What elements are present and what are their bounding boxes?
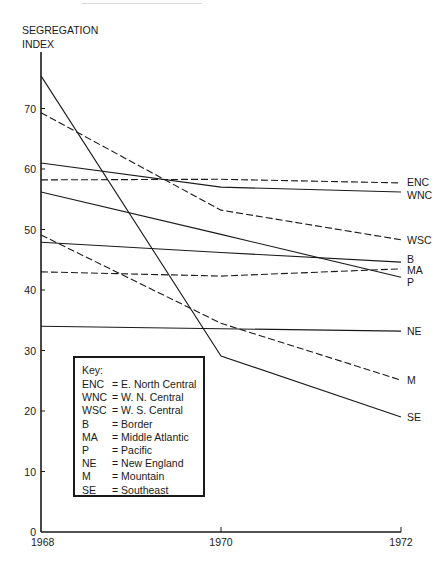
x-tick-label: 1970: [209, 536, 233, 548]
legend-abbr: M: [82, 470, 112, 482]
legend-abbr: WNC: [82, 391, 112, 403]
legend-description: = E. North Central: [112, 378, 196, 390]
series-line-enc: [41, 179, 401, 183]
legend-key-box: Key: ENC= E. North CentralWNC= W. N. Cen…: [73, 356, 205, 497]
series-label-p: P: [407, 276, 414, 288]
legend-abbr: P: [82, 444, 112, 456]
line-chart: 010203040506070196819701972ENCWNCWSCBMAP…: [0, 0, 445, 567]
legend-description: = Pacific: [112, 444, 152, 456]
series-label-se: SE: [407, 411, 421, 423]
y-tick-label: 70: [24, 103, 36, 115]
legend-abbr: NE: [82, 457, 112, 469]
y-tick-label: 10: [24, 466, 36, 478]
x-tick-label: 1972: [389, 536, 413, 548]
legend-entry: B= Border: [82, 418, 153, 430]
series-line-ne: [41, 326, 401, 331]
legend-description: = New England: [112, 457, 184, 469]
legend-entry: MA= Middle Atlantic: [82, 431, 189, 443]
legend-abbr: B: [82, 418, 112, 430]
legend-abbr: MA: [82, 431, 112, 443]
legend-entry: P= Pacific: [82, 444, 152, 456]
legend-entry: ENC= E. North Central: [82, 378, 196, 390]
y-tick-label: 40: [24, 284, 36, 296]
legend-entry: NE= New England: [82, 457, 184, 469]
x-tick-label: 1968: [31, 536, 55, 548]
legend-entry: WSC= W. S. Central: [82, 404, 183, 416]
y-tick-label: 60: [24, 163, 36, 175]
legend-entry: SE= Southeast: [82, 484, 168, 496]
series-label-ne: NE: [407, 325, 422, 337]
legend-entry: M= Mountain: [82, 470, 164, 482]
series-label-enc: ENC: [407, 176, 430, 188]
legend-description: = W. N. Central: [112, 391, 183, 403]
legend-abbr: ENC: [82, 378, 112, 390]
y-tick-label: 30: [24, 345, 36, 357]
series-line-wsc: [41, 113, 401, 240]
series-line-wnc: [41, 163, 401, 192]
series-label-wnc: WNC: [407, 189, 432, 201]
series-line-ma: [41, 269, 401, 276]
legend-abbr: WSC: [82, 404, 112, 416]
legend-description: = Southeast: [112, 484, 168, 496]
legend-abbr: SE: [82, 484, 112, 496]
legend-description: = W. S. Central: [112, 404, 183, 416]
y-tick-label: 50: [24, 224, 36, 236]
legend-description: = Middle Atlantic: [112, 431, 189, 443]
y-tick-label: 20: [24, 405, 36, 417]
legend-description: = Border: [112, 418, 153, 430]
legend-title: Key:: [82, 364, 103, 376]
series-label-wsc: WSC: [407, 234, 432, 246]
series-line-p: [41, 192, 401, 277]
legend-entry: WNC= W. N. Central: [82, 391, 183, 403]
series-label-ma: MA: [407, 264, 423, 276]
legend-description: = Mountain: [112, 470, 164, 482]
series-label-m: M: [407, 374, 416, 386]
series-line-b: [41, 242, 401, 262]
